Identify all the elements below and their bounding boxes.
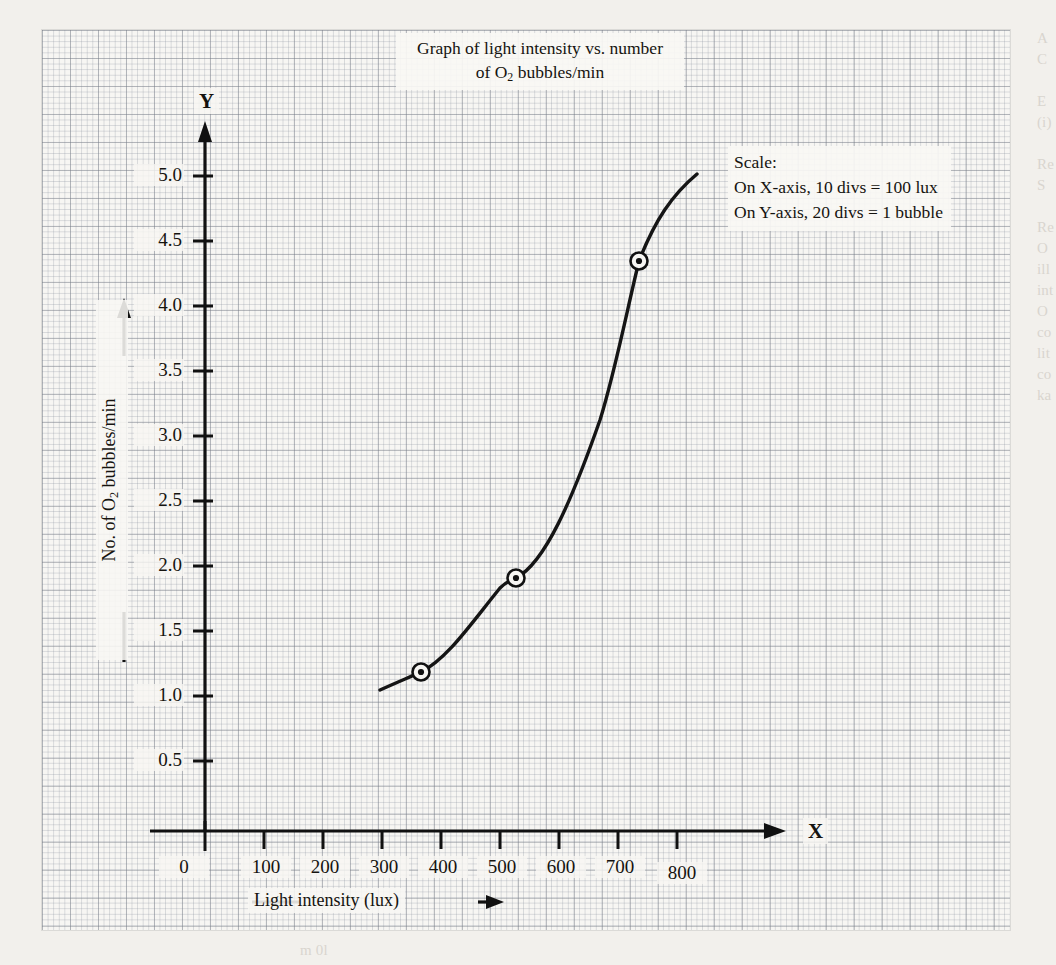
data-curve: [380, 174, 697, 690]
x-label-arrow-right-icon: [478, 895, 504, 909]
scale-note-y-line: On Y-axis, 20 divs = 1 bubble: [734, 200, 943, 225]
chart-title-line2-post: bubbles/min: [513, 62, 604, 82]
x-tick-label: 200: [300, 856, 350, 878]
y-tick-label: 4.5: [134, 229, 184, 251]
x-tick-label: 500: [477, 856, 527, 878]
y-axis: [198, 121, 212, 831]
y-axis-ticks: [193, 176, 213, 761]
scale-note-x-line: On X-axis, 10 divs = 100 lux: [734, 175, 943, 200]
data-point-marker[interactable]: [508, 570, 525, 587]
y-tick-label: 3.5: [134, 359, 184, 381]
y-tick-label: 2.0: [134, 554, 184, 576]
data-point-marker[interactable]: [413, 664, 430, 681]
chart-title: Graph of light intensity vs. number of O…: [396, 33, 684, 90]
x-tick-label: 300: [359, 856, 409, 878]
data-point-marker[interactable]: [631, 253, 648, 270]
scale-note-box: Scale: On X-axis, 10 divs = 100 lux On Y…: [728, 146, 951, 231]
x-tick-label: 400: [418, 856, 468, 878]
chart-title-line1: Graph of light intensity vs. number: [417, 38, 663, 58]
x-axis-letter: X: [803, 818, 828, 844]
x-tick-label: 100: [241, 856, 291, 878]
y-axis-letter: Y: [194, 88, 219, 114]
y-axis-title-subscript: 2: [107, 492, 121, 498]
y-tick-label: 5.0: [134, 164, 184, 186]
y-tick-label: 2.5: [134, 489, 184, 511]
x-tick-label: 600: [536, 856, 586, 878]
chart-plot-area: [0, 0, 1056, 965]
y-axis-title-pre: No. of O: [99, 498, 119, 562]
y-tick-label: 3.0: [134, 424, 184, 446]
scale-note-heading: Scale:: [734, 150, 943, 175]
y-tick-label: 1.5: [134, 619, 184, 641]
y-tick-label: 0.5: [134, 749, 184, 771]
x-axis-title: Light intensity (lux): [248, 888, 405, 913]
y-axis-title-post: bubbles/min: [99, 398, 119, 492]
chart-title-line2-pre: of O: [476, 62, 508, 82]
y-tick-label: 1.0: [134, 684, 184, 706]
x-axis: [150, 823, 786, 839]
x-tick-label: 800: [657, 862, 707, 884]
chart-title-subscript: 2: [507, 70, 513, 84]
x-axis-ticks: [205, 821, 677, 851]
x-tick-label: 0: [159, 856, 209, 878]
y-axis-title: No. of O2 bubbles/min: [96, 300, 128, 660]
x-tick-label: 700: [595, 856, 645, 878]
y-tick-label: 4.0: [134, 294, 184, 316]
